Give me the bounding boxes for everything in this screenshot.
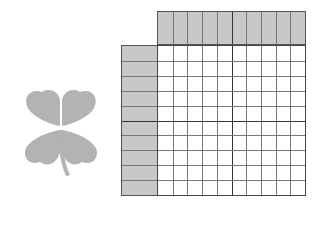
grid-cell[interactable] — [173, 180, 188, 195]
grid-cell[interactable] — [202, 91, 217, 106]
grid-cell[interactable] — [261, 46, 276, 61]
grid-cell[interactable] — [246, 150, 261, 165]
grid-cell[interactable] — [217, 106, 232, 121]
grid-cell[interactable] — [217, 135, 232, 150]
grid-cell[interactable] — [261, 121, 276, 136]
grid-cell[interactable] — [261, 76, 276, 91]
grid-cell[interactable] — [232, 46, 247, 61]
grid-cell[interactable] — [202, 135, 217, 150]
grid-cell[interactable] — [261, 135, 276, 150]
grid-cell[interactable] — [158, 106, 173, 121]
grid-cell[interactable] — [173, 135, 188, 150]
grid-cell[interactable] — [290, 180, 305, 195]
grid-cell[interactable] — [158, 180, 173, 195]
grid-cell[interactable] — [290, 46, 305, 61]
grid-cell[interactable] — [187, 150, 202, 165]
grid-cell[interactable] — [232, 61, 247, 76]
grid-cell[interactable] — [173, 165, 188, 180]
grid-cell[interactable] — [276, 91, 291, 106]
grid-cell[interactable] — [173, 46, 188, 61]
grid-cell[interactable] — [246, 135, 261, 150]
grid-cell[interactable] — [217, 76, 232, 91]
grid-cell[interactable] — [187, 135, 202, 150]
grid-cell[interactable] — [217, 121, 232, 136]
grid-cell[interactable] — [261, 61, 276, 76]
grid-cell[interactable] — [290, 121, 305, 136]
grid-cell[interactable] — [276, 61, 291, 76]
grid-cell[interactable] — [187, 61, 202, 76]
grid-cell[interactable] — [290, 76, 305, 91]
grid-cell[interactable] — [158, 46, 173, 61]
grid-cell[interactable] — [158, 76, 173, 91]
grid-cell[interactable] — [202, 106, 217, 121]
grid-cell[interactable] — [187, 165, 202, 180]
grid-cell[interactable] — [202, 121, 217, 136]
grid-cell[interactable] — [246, 46, 261, 61]
grid-cell[interactable] — [232, 76, 247, 91]
grid-cell[interactable] — [158, 150, 173, 165]
grid-cell[interactable] — [232, 150, 247, 165]
grid-cell[interactable] — [158, 121, 173, 136]
grid-cell[interactable] — [202, 150, 217, 165]
grid-cell[interactable] — [217, 91, 232, 106]
grid-cell[interactable] — [246, 180, 261, 195]
grid-cell[interactable] — [232, 121, 247, 136]
grid-cell[interactable] — [158, 91, 173, 106]
grid-cell[interactable] — [173, 106, 188, 121]
grid-cell[interactable] — [246, 91, 261, 106]
grid-cell[interactable] — [290, 165, 305, 180]
grid-cell[interactable] — [173, 61, 188, 76]
grid-cell[interactable] — [173, 121, 188, 136]
grid-cell[interactable] — [261, 180, 276, 195]
grid-cell[interactable] — [217, 150, 232, 165]
grid-cell[interactable] — [217, 46, 232, 61]
grid-cell[interactable] — [246, 121, 261, 136]
grid-cell[interactable] — [173, 150, 188, 165]
grid-cell[interactable] — [202, 46, 217, 61]
grid-cell[interactable] — [276, 165, 291, 180]
grid-cell[interactable] — [217, 180, 232, 195]
grid-cell[interactable] — [290, 91, 305, 106]
grid-cell[interactable] — [232, 165, 247, 180]
grid-cell[interactable] — [246, 165, 261, 180]
grid-cell[interactable] — [187, 180, 202, 195]
grid-cell[interactable] — [261, 106, 276, 121]
grid-cell[interactable] — [246, 61, 261, 76]
grid-cell[interactable] — [202, 61, 217, 76]
grid-cell[interactable] — [276, 46, 291, 61]
grid-cell[interactable] — [187, 121, 202, 136]
grid-cell[interactable] — [202, 180, 217, 195]
grid-cell[interactable] — [290, 61, 305, 76]
grid-cell[interactable] — [261, 150, 276, 165]
grid-cell[interactable] — [173, 76, 188, 91]
grid-cell[interactable] — [276, 121, 291, 136]
grid-cell[interactable] — [276, 180, 291, 195]
grid-cell[interactable] — [217, 165, 232, 180]
grid-cell[interactable] — [187, 106, 202, 121]
grid-cell[interactable] — [290, 135, 305, 150]
grid-cell[interactable] — [276, 150, 291, 165]
grid-cell[interactable] — [187, 46, 202, 61]
grid-cell[interactable] — [246, 106, 261, 121]
grid-cell[interactable] — [158, 135, 173, 150]
grid-cell[interactable] — [232, 135, 247, 150]
grid-cell[interactable] — [158, 61, 173, 76]
grid-cell[interactable] — [158, 165, 173, 180]
grid-cell[interactable] — [261, 91, 276, 106]
grid-cell[interactable] — [246, 76, 261, 91]
grid-cell[interactable] — [290, 106, 305, 121]
grid-cell[interactable] — [276, 106, 291, 121]
grid-cell[interactable] — [173, 91, 188, 106]
grid-cell[interactable] — [217, 61, 232, 76]
grid-cell[interactable] — [276, 135, 291, 150]
grid-cell[interactable] — [232, 106, 247, 121]
grid-cell[interactable] — [202, 165, 217, 180]
grid-cell[interactable] — [187, 91, 202, 106]
grid-cell[interactable] — [202, 76, 217, 91]
grid-cell[interactable] — [187, 76, 202, 91]
grid-cell[interactable] — [276, 76, 291, 91]
grid-cell[interactable] — [261, 165, 276, 180]
grid-cell[interactable] — [232, 91, 247, 106]
grid-cell[interactable] — [232, 180, 247, 195]
grid-cell[interactable] — [290, 150, 305, 165]
